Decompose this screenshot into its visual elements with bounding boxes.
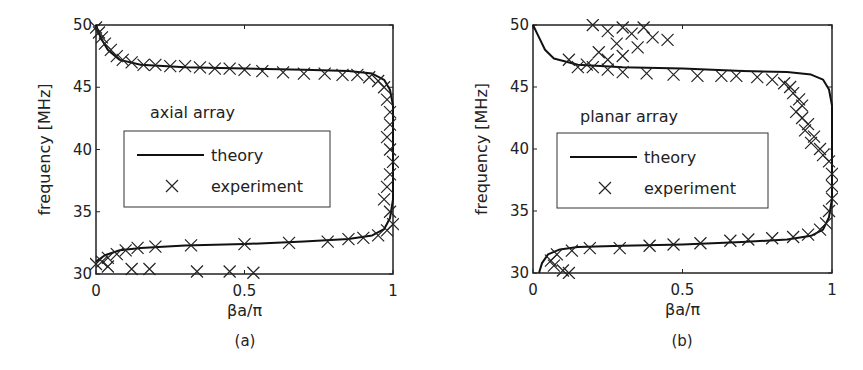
panel-caption: (b) (671, 332, 692, 350)
x-tick-label: 0.5 (233, 282, 257, 300)
panel-a: 303540455000.51βa/πfrequency [MHz](a)axi… (0, 0, 431, 370)
y-tick-label: 30 (73, 265, 92, 283)
legend-experiment-label: experiment (211, 177, 303, 196)
y-tick-label: 50 (73, 16, 92, 34)
legend-theory-label: theory (211, 146, 263, 165)
x-axis-label: βa/π (227, 301, 262, 320)
x-tick-label: 0 (91, 282, 101, 300)
y-tick-label: 40 (510, 140, 529, 158)
y-tick-label: 35 (510, 202, 529, 220)
legend-experiment-label: experiment (644, 179, 736, 198)
x-axis-label: βa/π (665, 300, 700, 319)
y-tick-label: 40 (73, 141, 92, 159)
legend: theoryexperiment (557, 133, 768, 208)
y-tick-label: 45 (73, 78, 92, 96)
x-tick-label: 1 (827, 281, 837, 299)
array-type-annotation: axial array (150, 103, 235, 122)
legend: theoryexperiment (124, 131, 330, 207)
legend-theory-label: theory (644, 148, 696, 167)
array-type-annotation: planar array (580, 107, 678, 126)
y-tick-label: 30 (510, 264, 529, 282)
panel-b: 303540455000.51βa/πfrequency [MHz](b)pla… (430, 0, 861, 370)
y-axis-label: frequency [MHz] (35, 83, 54, 215)
chart-a-svg: 303540455000.51βa/πfrequency [MHz](a)axi… (0, 0, 431, 370)
x-tick-label: 1 (388, 282, 398, 300)
y-tick-label: 50 (510, 16, 529, 34)
y-tick-label: 35 (73, 203, 92, 221)
y-tick-label: 45 (510, 78, 529, 96)
x-tick-label: 0 (528, 281, 538, 299)
y-axis-label: frequency [MHz] (472, 83, 491, 215)
chart-b-svg: 303540455000.51βa/πfrequency [MHz](b)pla… (430, 0, 863, 370)
x-tick-label: 0.5 (671, 281, 695, 299)
panel-caption: (a) (235, 332, 256, 350)
